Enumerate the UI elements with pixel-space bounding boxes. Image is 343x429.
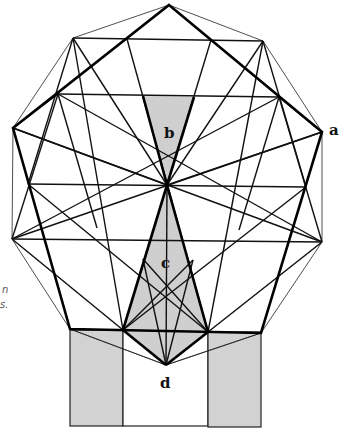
label-d: d (160, 376, 171, 391)
label-a: a (329, 123, 339, 138)
caption-fragment-1: n (2, 285, 8, 295)
left-shaded-rectangle (70, 330, 123, 426)
label-c: c (161, 256, 170, 271)
caption-fragment-2: s. (0, 300, 8, 310)
right-shaded-rectangle (208, 332, 261, 427)
label-b: b (164, 126, 175, 141)
decagon-diagram (0, 0, 343, 429)
